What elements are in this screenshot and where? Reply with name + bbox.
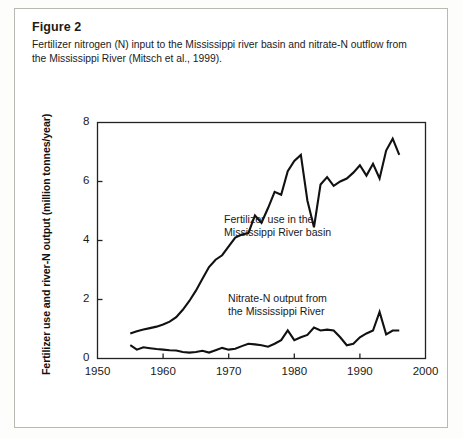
y-tick-label: 2 [60,292,90,304]
annotation-nitrate-line1: Nitrate-N output from [228,292,327,305]
y-tick-label: 8 [60,115,90,127]
y-tick-label: 0 [60,351,90,363]
page-canvas: Figure 2 Fertilizer nitrogen (N) input t… [0,0,463,438]
y-tick-label: 4 [60,233,90,245]
x-tick-label: 1960 [138,365,188,377]
annotation-fertilizer-line1: Fertilizer use in the [224,213,331,226]
annotation-nitrate-line2: the Mississippi River [228,305,327,318]
annotation-nitrate: Nitrate-N output fromthe Mississippi Riv… [228,292,327,319]
x-tick-label: 1990 [335,365,385,377]
y-axis-title: Fertilizer use and river-N output (milli… [40,114,52,375]
x-tick-label: 1950 [73,365,123,377]
x-tick-label: 1980 [269,365,319,377]
annotation-fertilizer: Fertilizer use in theMississippi River b… [224,213,331,240]
chart-area: Fertilizer use and river-N output (milli… [0,0,463,438]
x-tick-label: 2000 [401,365,451,377]
annotation-fertilizer-line2: Mississippi River basin [224,226,331,239]
y-tick-label: 6 [60,174,90,186]
x-tick-label: 1970 [204,365,254,377]
